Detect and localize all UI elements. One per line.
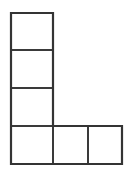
figure-canvas: L-shaped grid of squares bbox=[0, 0, 130, 175]
cell-r2-c0[interactable] bbox=[11, 88, 53, 126]
cell-r0-c0[interactable] bbox=[11, 13, 53, 50]
cell-r3-c1[interactable] bbox=[53, 126, 88, 164]
cell-r3-c0[interactable] bbox=[11, 126, 53, 164]
l-shape-figure-svg: L-shaped grid of squares bbox=[0, 0, 130, 175]
cell-r1-c0[interactable] bbox=[11, 50, 53, 88]
cell-r3-c2[interactable] bbox=[88, 126, 122, 164]
